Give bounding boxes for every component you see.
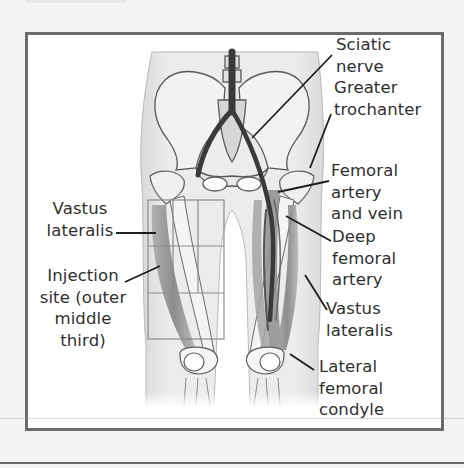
label-femoral-artery-and-vein: Femoral artery and vein (331, 160, 403, 225)
label-line: Deep (332, 226, 396, 248)
label-line: lateralis (40, 220, 120, 242)
label-line: Lateral (319, 356, 384, 378)
label-line: artery (331, 182, 403, 204)
label-line: lateralis (326, 320, 393, 342)
label-line: Sciatic (336, 34, 391, 56)
page-bottom-rule (0, 462, 464, 464)
label-line: trochanter (334, 99, 422, 121)
label-line: Injection (38, 265, 128, 287)
label-line: Greater (334, 77, 422, 99)
scan-artifact-line (0, 418, 464, 419)
label-line: condyle (319, 399, 384, 421)
label-deep-femoral-artery: Deep femoral artery (332, 226, 396, 291)
label-greater-trochanter: Greater trochanter (334, 77, 422, 120)
label-vastus-lateralis-right: Vastus lateralis (326, 298, 393, 341)
label-lateral-femoral-condyle: Lateral femoral condyle (319, 356, 384, 421)
label-line: femoral (319, 378, 384, 400)
label-line: and vein (331, 203, 403, 225)
label-line: middle (38, 308, 128, 330)
label-line: third) (38, 330, 128, 352)
label-line: Vastus (40, 198, 120, 220)
label-line: Vastus (326, 298, 393, 320)
label-line: artery (332, 269, 396, 291)
label-line: site (outer (38, 287, 128, 309)
label-injection-site: Injection site (outer middle third) (38, 265, 128, 351)
label-line: Femoral (331, 160, 403, 182)
label-line: femoral (332, 248, 396, 270)
label-line: nerve (336, 56, 391, 78)
knees (180, 347, 284, 374)
label-vastus-lateralis-left: Vastus lateralis (40, 198, 120, 241)
label-sciatic-nerve: Sciatic nerve (336, 34, 391, 77)
